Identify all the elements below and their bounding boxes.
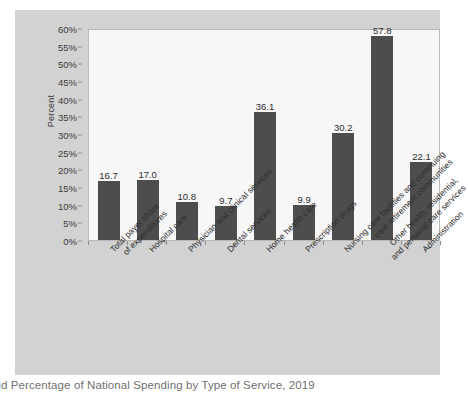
- x-tick-mark: [362, 241, 363, 245]
- y-axis-tick-55: 55%: [58, 41, 77, 52]
- plot-area: 16.717.010.89.736.19.930.257.822.1: [88, 29, 440, 241]
- x-tick-mark: [440, 241, 441, 245]
- y-tick-mark: [78, 223, 82, 224]
- bar-value-label: 22.1: [412, 151, 431, 162]
- figure-caption: caid Percentage of National Spending by …: [0, 379, 315, 391]
- x-tick-mark: [401, 241, 402, 245]
- y-tick-mark: [78, 46, 82, 47]
- y-axis-tick-20: 20%: [58, 165, 77, 176]
- y-axis-tick-5: 5%: [63, 218, 77, 229]
- bar: [176, 202, 198, 240]
- x-tick-mark: [244, 241, 245, 245]
- x-tick-mark: [127, 241, 128, 245]
- y-tick-mark: [78, 64, 82, 65]
- y-axis-tick-45: 45%: [58, 77, 77, 88]
- y-tick-mark: [78, 82, 82, 83]
- bar: [137, 180, 159, 240]
- bar: [293, 205, 315, 240]
- y-axis-tick-0: 0%: [63, 236, 77, 247]
- y-tick-mark: [78, 99, 82, 100]
- bar-value-label: 10.8: [178, 191, 197, 202]
- y-tick-mark: [78, 135, 82, 136]
- chart-panel: Percent 0%5%10%15%20%25%30%35%40%45%50%5…: [15, 10, 440, 375]
- y-axis-tick-labels: 0%5%10%15%20%25%30%35%40%45%50%55%60%: [39, 29, 82, 241]
- bar: [98, 181, 120, 240]
- x-tick-mark: [205, 241, 206, 245]
- y-axis-tick-10: 10%: [58, 200, 77, 211]
- bar-value-label: 9.7: [219, 195, 232, 206]
- x-tick-mark: [88, 241, 89, 245]
- y-tick-mark: [78, 170, 82, 171]
- x-tick-mark: [284, 241, 285, 245]
- bar-value-label: 9.9: [298, 194, 311, 205]
- bar-value-label: 30.2: [334, 122, 353, 133]
- bar: [332, 133, 354, 240]
- y-axis-tick-15: 15%: [58, 183, 77, 194]
- y-tick-mark: [78, 241, 82, 242]
- bar-value-label: 16.7: [99, 170, 118, 181]
- y-axis-tick-60: 60%: [58, 24, 77, 35]
- bar-value-label: 17.0: [138, 169, 157, 180]
- y-tick-mark: [78, 29, 82, 30]
- y-axis-tick-40: 40%: [58, 94, 77, 105]
- y-axis-tick-25: 25%: [58, 147, 77, 158]
- x-tick-mark: [166, 241, 167, 245]
- y-axis-tick-30: 30%: [58, 130, 77, 141]
- bar: [254, 112, 276, 240]
- y-tick-mark: [78, 205, 82, 206]
- x-tick-mark: [323, 241, 324, 245]
- y-tick-mark: [78, 152, 82, 153]
- bar: [371, 36, 393, 240]
- bar: [215, 206, 237, 240]
- bars-layer: 16.717.010.89.736.19.930.257.822.1: [89, 30, 439, 240]
- bar-value-label: 36.1: [256, 101, 275, 112]
- y-tick-mark: [78, 117, 82, 118]
- bar-value-label: 57.8: [373, 25, 392, 36]
- bar: [410, 162, 432, 240]
- y-axis-tick-50: 50%: [58, 59, 77, 70]
- y-axis-tick-35: 35%: [58, 112, 77, 123]
- y-tick-mark: [78, 188, 82, 189]
